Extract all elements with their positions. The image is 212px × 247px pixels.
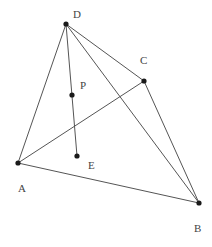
diagram-svg: DCPEAB <box>0 0 212 247</box>
label-B: B <box>194 222 201 234</box>
point-A <box>15 160 20 165</box>
label-D: D <box>73 8 81 20</box>
segment-DA <box>18 24 66 163</box>
label-E: E <box>88 159 95 171</box>
segment-AB <box>18 163 199 203</box>
segment-AC <box>18 81 144 163</box>
point-E <box>74 153 79 158</box>
segment-DC <box>66 24 144 81</box>
labels-group: DCPEAB <box>18 8 201 234</box>
point-D <box>63 21 68 26</box>
segment-CB <box>144 81 199 203</box>
point-C <box>141 78 146 83</box>
points-group <box>15 21 201 205</box>
label-A: A <box>18 182 26 194</box>
point-P <box>69 92 74 97</box>
point-B <box>196 200 201 205</box>
segments-group <box>18 24 199 203</box>
segment-DE <box>66 24 77 156</box>
label-C: C <box>140 54 147 66</box>
label-P: P <box>80 79 86 91</box>
segment-DB <box>66 24 199 203</box>
geometry-diagram: DCPEAB <box>0 0 212 247</box>
